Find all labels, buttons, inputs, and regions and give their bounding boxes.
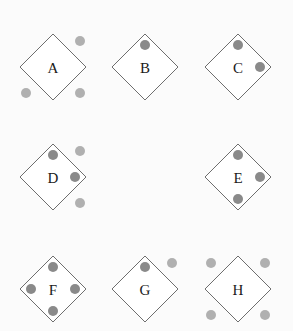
option-b[interactable]: B: [112, 34, 178, 100]
dot-inside-top: [233, 150, 243, 160]
dot-outside-top-right: [75, 36, 85, 46]
dot-inside-right: [255, 172, 265, 182]
option-f[interactable]: F: [20, 256, 86, 322]
option-label: D: [48, 170, 59, 186]
option-label: C: [233, 60, 243, 76]
dot-inside-right: [255, 62, 265, 72]
option-g[interactable]: G: [112, 256, 178, 322]
dot-inside-top: [48, 262, 58, 272]
diamond-grid: ABCDEFGH: [0, 0, 293, 331]
option-label: B: [140, 60, 150, 76]
option-label: E: [233, 170, 242, 186]
option-h[interactable]: H: [205, 256, 271, 322]
dot-outside-bottom-right: [75, 198, 85, 208]
dot-inside-top: [233, 40, 243, 50]
option-label: A: [48, 60, 59, 76]
dot-outside-bottom-left: [206, 310, 216, 320]
dot-outside-top-right: [260, 258, 270, 268]
dot-inside-top: [140, 40, 150, 50]
dot-outside-top-right: [75, 146, 85, 156]
option-c[interactable]: C: [205, 34, 271, 100]
dot-inside-left: [26, 284, 36, 294]
dot-outside-bottom-left: [21, 88, 31, 98]
option-label: G: [140, 282, 151, 298]
dot-inside-right: [70, 284, 80, 294]
dot-inside-right: [70, 172, 80, 182]
dot-inside-top: [48, 150, 58, 160]
dot-outside-top-left: [206, 258, 216, 268]
option-label: H: [233, 282, 244, 298]
dot-inside-bottom: [233, 194, 243, 204]
dot-inside-bottom: [48, 306, 58, 316]
option-a[interactable]: A: [20, 34, 86, 100]
dot-inside-top: [140, 262, 150, 272]
puzzle-figure: ABCDEFGH: [0, 0, 293, 331]
option-e[interactable]: E: [205, 144, 271, 210]
option-label: F: [49, 282, 57, 298]
dot-outside-bottom-right: [75, 88, 85, 98]
option-d[interactable]: D: [20, 144, 86, 210]
dot-outside-bottom-right: [260, 310, 270, 320]
dot-outside-top-right: [167, 258, 177, 268]
